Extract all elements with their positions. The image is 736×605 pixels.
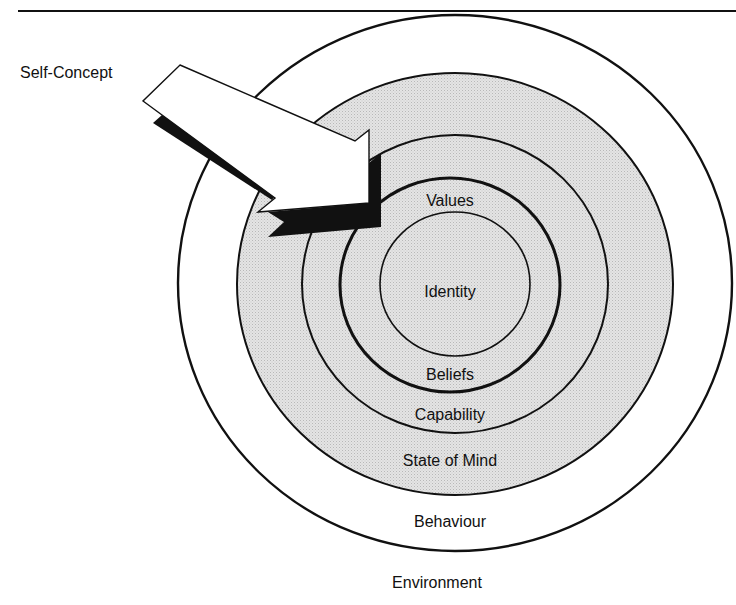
- label-identity: Identity: [424, 283, 476, 300]
- label-capability: Capability: [415, 406, 485, 423]
- label-environment: Environment: [392, 574, 482, 591]
- label-state-of-mind: State of Mind: [403, 452, 497, 469]
- neurological-levels-diagram: Self-Concept Values Identity Beliefs Cap…: [0, 0, 736, 605]
- label-behaviour: Behaviour: [414, 513, 487, 530]
- label-beliefs: Beliefs: [426, 366, 474, 383]
- label-self-concept: Self-Concept: [20, 64, 113, 81]
- label-values: Values: [426, 192, 474, 209]
